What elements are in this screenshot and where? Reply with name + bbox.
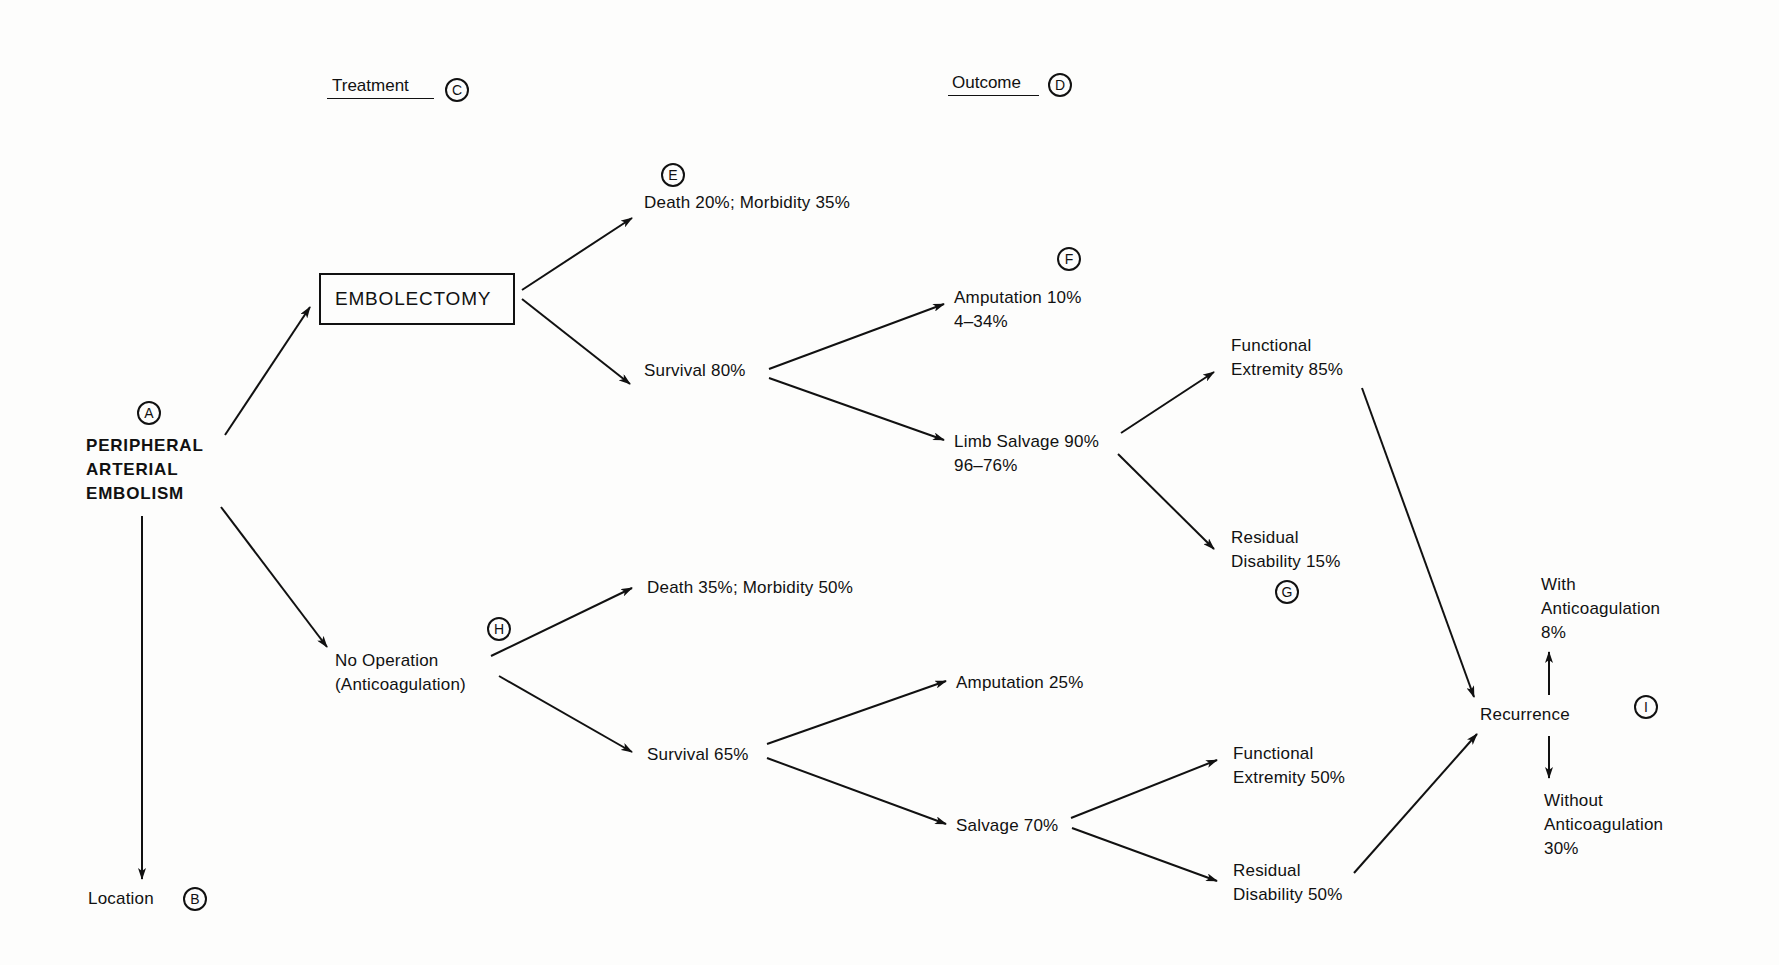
marker-e: E — [661, 163, 685, 187]
arrow-salvage-to-residual50 — [1072, 828, 1217, 881]
no-operation-line-2: (Anticoagulation) — [335, 673, 466, 697]
no-op-survival: Survival 65% — [647, 743, 749, 767]
arrow-salvage-to-functional50 — [1071, 760, 1217, 818]
residual50-line-1: Residual — [1233, 859, 1301, 883]
treatment-underline — [327, 98, 434, 99]
embolectomy-amputation-line-1: Amputation 10% — [954, 286, 1082, 310]
functional50-line-2: Extremity 50% — [1233, 766, 1345, 790]
outcome-header: Outcome — [952, 72, 1021, 94]
no-op-salvage: Salvage 70% — [956, 814, 1058, 838]
embolectomy-survival: Survival 80% — [644, 359, 746, 383]
without-anticoag-line-3: 30% — [1544, 837, 1579, 861]
outcome-underline — [948, 95, 1039, 96]
arrows-layer — [0, 0, 1779, 965]
marker-g: G — [1275, 580, 1299, 604]
marker-i: I — [1634, 695, 1658, 719]
arrow-root-to-no-operation — [221, 507, 327, 647]
location-label: Location — [88, 887, 154, 911]
with-anticoag-line-1: With — [1541, 573, 1576, 597]
root-node-line-3: EMBOLISM — [86, 482, 184, 506]
treatment-header: Treatment — [332, 75, 409, 97]
marker-h: H — [487, 617, 511, 641]
embolectomy-amputation-line-2: 4–34% — [954, 310, 1008, 334]
arrow-no-op-to-survival — [499, 676, 632, 752]
functional50-line-1: Functional — [1233, 742, 1313, 766]
marker-c: C — [445, 78, 469, 102]
residual15-line-2: Disability 15% — [1231, 550, 1341, 574]
arrow-survival65-to-amputation — [767, 681, 946, 744]
with-anticoag-line-2: Anticoagulation — [1541, 597, 1660, 621]
marker-a: A — [137, 401, 161, 425]
limb-salvage-line-1: Limb Salvage 90% — [954, 430, 1099, 454]
root-node-line-1: PERIPHERAL — [86, 434, 204, 458]
arrow-functional85-to-recurrence — [1362, 388, 1474, 697]
functional85-line-1: Functional — [1231, 334, 1311, 358]
arrow-survival80-to-amputation — [769, 304, 944, 369]
embolectomy-box: EMBOLECTOMY — [319, 273, 515, 325]
arrow-embolectomy-to-death — [522, 218, 632, 290]
root-node-line-2: ARTERIAL — [86, 458, 178, 482]
no-operation-line-1: No Operation — [335, 649, 439, 673]
residual50-line-2: Disability 50% — [1233, 883, 1343, 907]
without-anticoag-line-1: Without — [1544, 789, 1603, 813]
residual15-line-1: Residual — [1231, 526, 1299, 550]
marker-b: B — [183, 887, 207, 911]
arrow-root-to-embolectomy — [225, 307, 310, 435]
with-anticoag-line-3: 8% — [1541, 621, 1566, 645]
functional85-line-2: Extremity 85% — [1231, 358, 1343, 382]
arrow-limb-to-residual15 — [1118, 454, 1214, 549]
arrow-survival80-to-limb-salvage — [769, 378, 944, 440]
arrow-survival65-to-salvage — [767, 758, 946, 824]
arrow-embolectomy-to-survival — [522, 299, 630, 384]
no-op-amputation: Amputation 25% — [956, 671, 1084, 695]
recurrence-label: Recurrence — [1480, 703, 1570, 727]
arrow-no-op-to-death — [491, 588, 632, 656]
no-op-death: Death 35%; Morbidity 50% — [647, 576, 853, 600]
without-anticoag-line-2: Anticoagulation — [1544, 813, 1663, 837]
embolectomy-death: Death 20%; Morbidity 35% — [644, 191, 850, 215]
limb-salvage-line-2: 96–76% — [954, 454, 1018, 478]
marker-d: D — [1048, 73, 1072, 97]
arrow-residual50-to-recurrence — [1354, 734, 1477, 873]
embolectomy-label: EMBOLECTOMY — [321, 288, 491, 310]
arrow-limb-to-functional85 — [1121, 372, 1214, 433]
marker-f: F — [1057, 247, 1081, 271]
